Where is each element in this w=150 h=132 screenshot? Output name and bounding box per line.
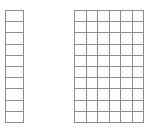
grid-cell — [75, 56, 86, 66]
left-grid — [5, 10, 24, 123]
grid-cell — [133, 45, 144, 55]
grid-cell — [75, 78, 86, 88]
grid-cell — [121, 33, 132, 43]
grid-cell — [75, 33, 86, 43]
grid-cell — [98, 89, 109, 99]
grid-cell — [98, 78, 109, 88]
grid-cell — [75, 45, 86, 55]
grid-cell — [87, 112, 98, 122]
grid-cell — [87, 11, 98, 21]
grid-cell — [110, 101, 121, 111]
grid-cell — [87, 78, 98, 88]
grid-cell — [98, 11, 109, 21]
grid-cell — [98, 33, 109, 43]
grid-cell — [121, 67, 132, 77]
grid-cell — [121, 89, 132, 99]
grid-cell — [133, 101, 144, 111]
grid-cell — [98, 101, 109, 111]
grid-cell — [110, 22, 121, 32]
grid-cell — [110, 78, 121, 88]
grid-cell — [75, 112, 86, 122]
grid-cell — [110, 11, 121, 21]
grid-cell — [133, 112, 144, 122]
grid-cell — [98, 112, 109, 122]
grid-cell — [133, 11, 144, 21]
grid-cell — [110, 56, 121, 66]
grid-cell — [110, 112, 121, 122]
grid-cell — [98, 22, 109, 32]
grid-cell — [6, 67, 23, 77]
grid-cell — [133, 89, 144, 99]
grid-cell — [6, 22, 23, 32]
grid-cell — [110, 67, 121, 77]
grid-cell — [6, 101, 23, 111]
grid-cell — [110, 33, 121, 43]
grid-cell — [6, 11, 23, 21]
grid-cell — [133, 33, 144, 43]
grid-cell — [110, 45, 121, 55]
grid-cell — [6, 89, 23, 99]
figure-canvas — [0, 0, 150, 132]
grid-cell — [121, 78, 132, 88]
grid-cell — [98, 67, 109, 77]
grid-cell — [98, 56, 109, 66]
grid-cell — [121, 22, 132, 32]
grid-cell — [133, 22, 144, 32]
grid-cell — [121, 11, 132, 21]
grid-cell — [75, 22, 86, 32]
grid-cell — [75, 89, 86, 99]
grid-cell — [87, 89, 98, 99]
grid-cell — [121, 101, 132, 111]
grid-cell — [75, 67, 86, 77]
grid-cell — [133, 56, 144, 66]
grid-cell — [133, 78, 144, 88]
grid-cell — [87, 45, 98, 55]
grid-cell — [87, 56, 98, 66]
grid-cell — [87, 67, 98, 77]
grid-cell — [87, 101, 98, 111]
grid-cell — [75, 101, 86, 111]
grid-cell — [121, 112, 132, 122]
grid-cell — [133, 67, 144, 77]
grid-cell — [98, 45, 109, 55]
grid-cell — [6, 45, 23, 55]
grid-cell — [110, 89, 121, 99]
grid-cell — [6, 33, 23, 43]
grid-cell — [75, 11, 86, 21]
grid-cell — [6, 112, 23, 122]
grid-cell — [87, 33, 98, 43]
right-grid — [74, 10, 144, 123]
grid-cell — [6, 78, 23, 88]
grid-cell — [87, 22, 98, 32]
grid-cell — [6, 56, 23, 66]
grid-cell — [121, 56, 132, 66]
grid-cell — [121, 45, 132, 55]
